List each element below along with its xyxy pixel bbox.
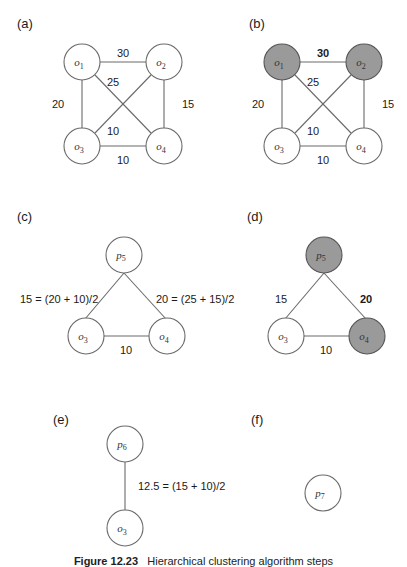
edge-p5-o3: [285, 273, 324, 319]
node-o1: o1: [64, 44, 100, 80]
panel-d: (d) 15 20 10 p5 o3 o4: [247, 209, 385, 356]
node-o3: o3: [264, 128, 300, 164]
node-o4-shaded: o4: [349, 318, 385, 354]
weight-p5-o4: 20: [360, 293, 372, 305]
node-o1-shaded: o1: [264, 44, 300, 80]
weight-o2-o4: 15: [182, 98, 194, 110]
node-o4: o4: [146, 128, 182, 164]
panel-label-f: (f): [251, 412, 263, 427]
panel-b: (b) 30 20 25 10 15 10 o1 o2 o3 o4: [249, 16, 394, 166]
node-p7: p7: [305, 475, 341, 511]
node-o2: o2: [146, 44, 182, 80]
weight-o1-o2: 30: [317, 47, 329, 59]
figure-caption: Figure 12.23 Hierarchical clustering alg…: [0, 555, 407, 567]
panel-label-b: (b): [249, 16, 265, 31]
weight-o1-o2: 30: [117, 47, 129, 59]
panel-c: (c) 15 = (20 + 10)/2 20 = (25 + 15)/2 10…: [17, 209, 234, 356]
caption-text: Hierarchical clustering algorithm steps: [147, 555, 333, 567]
weight-p5-o3: 15 = (20 + 10)/2: [20, 293, 98, 305]
node-p5-shaded: p5: [306, 237, 342, 273]
weight-p6-o3: 12.5 = (15 + 10)/2: [138, 480, 225, 492]
panel-f: (f) p7: [251, 412, 341, 511]
weight-p5-o3: 15: [275, 293, 287, 305]
weight-o3-o4: 10: [120, 344, 132, 356]
weight-o2-o3: 10: [107, 125, 119, 137]
weight-o2-o4: 15: [382, 98, 394, 110]
panel-label-a: (a): [17, 16, 33, 31]
weight-o1-o3: 20: [52, 98, 64, 110]
weight-o1-o4: 25: [107, 76, 119, 88]
weight-o3-o4: 10: [317, 154, 329, 166]
node-o2-shaded: o2: [346, 44, 382, 80]
weight-o3-o4: 10: [117, 154, 129, 166]
node-p5: p5: [106, 237, 142, 273]
weight-o3-o4: 10: [320, 344, 332, 356]
weight-o2-o3: 10: [307, 125, 319, 137]
node-o4: o4: [149, 318, 185, 354]
weight-p5-o4: 20 = (25 + 15)/2: [156, 293, 234, 305]
caption-label: Figure 12.23: [74, 555, 138, 567]
node-o3: o3: [107, 510, 143, 546]
panel-a: (a) 30 20 25 10 15 10 o1 o2 o3 o4: [17, 16, 194, 166]
node-o3: o3: [68, 318, 104, 354]
panel-label-c: (c): [17, 209, 32, 224]
weight-o1-o4: 25: [307, 76, 319, 88]
weight-o1-o3: 20: [252, 98, 264, 110]
panel-label-e: (e): [53, 412, 69, 427]
panel-label-d: (d): [247, 209, 263, 224]
panel-e: (e) 12.5 = (15 + 10)/2 p6 o3: [53, 412, 225, 546]
node-o3: o3: [268, 318, 304, 354]
node-o3: o3: [64, 128, 100, 164]
node-o4: o4: [346, 128, 382, 164]
node-p6: p6: [107, 426, 143, 462]
